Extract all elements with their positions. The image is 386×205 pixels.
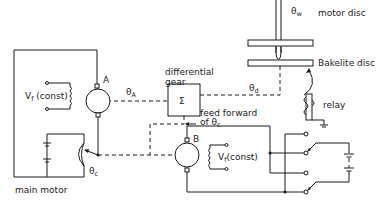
- brush-b-top: [185, 138, 189, 142]
- junction-b2: [284, 191, 287, 194]
- servo-schematic: θw motor disc Bakelite disc relay θd Σ d…: [0, 0, 386, 205]
- contact-3: [304, 171, 308, 175]
- shaft-tip: [276, 47, 281, 60]
- disc-assembly: [248, 0, 313, 66]
- theta-c-label: θc: [89, 166, 99, 178]
- motor-b-label: B: [193, 134, 199, 144]
- switch-arm-upper: [308, 143, 349, 153]
- field-a-terminal-top: [46, 82, 49, 85]
- generator-a: [86, 89, 110, 113]
- brush-b-bottom: [185, 168, 189, 172]
- switch-wire-top: [285, 134, 304, 192]
- main-circuit-loop: [14, 50, 97, 177]
- sigma-symbol: Σ: [179, 96, 185, 106]
- motor-b: [175, 143, 199, 167]
- theta-d-label: θd: [249, 83, 259, 95]
- contact-1: [304, 132, 308, 136]
- brush-a-bottom: [96, 113, 100, 117]
- relay-label: relay: [323, 100, 346, 110]
- field-a-terminal-bottom: [46, 108, 49, 111]
- motor-disc: [248, 40, 313, 46]
- main-motor-label: main motor: [15, 185, 68, 195]
- switch-arm-lower: [308, 171, 349, 190]
- relay-core: [306, 94, 312, 120]
- field-b-terminal-top: [225, 144, 228, 147]
- potentiometer-arc: [79, 143, 85, 166]
- brush-a-top: [95, 84, 99, 88]
- theta-a-label: θA: [126, 87, 137, 99]
- differential-gear-label-1: differential: [165, 67, 214, 77]
- differential-gear-label-2: gear: [165, 77, 186, 87]
- vf-const-a-label: Vf (const): [25, 91, 68, 103]
- vf-const-b-label: Vf(const): [218, 152, 258, 164]
- switch-wire-lower-mid: [270, 153, 304, 173]
- motor-a-label: A: [103, 75, 110, 85]
- field-b-terminal-bottom: [225, 168, 228, 171]
- bakelite-disc: [248, 60, 313, 66]
- bakelite-disc-label: Bakelite disc: [318, 58, 375, 68]
- b-lower-wire: [187, 172, 285, 192]
- theta-w-label: θw: [291, 6, 303, 18]
- feed-forward-arrow: [185, 122, 189, 126]
- reversing-switch: [269, 132, 355, 194]
- feed-forward-label-2: of θc: [200, 117, 221, 129]
- wiper-arrow: [84, 149, 89, 153]
- relay: [304, 94, 328, 127]
- motor-disc-label: motor disc: [318, 8, 366, 18]
- junction-b1: [269, 152, 272, 155]
- b-upper-wire: [187, 126, 270, 153]
- relay-arm: [304, 70, 313, 95]
